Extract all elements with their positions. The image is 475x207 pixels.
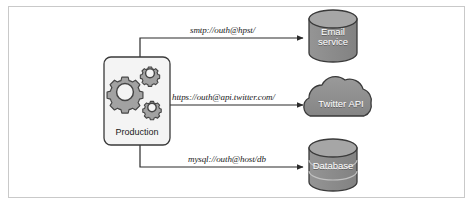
- edge-label-https: https://outh@api.twitter.com/: [172, 92, 275, 102]
- node-label-email-line2: service: [309, 37, 357, 47]
- node-label-database: Database: [309, 161, 357, 171]
- edge-label-smtp: smtp://outh@hpst/: [190, 25, 255, 35]
- diagram-figure: smtp://outh@hpst/ https://outh@api.twitt…: [0, 0, 475, 207]
- node-label-twitter-api: Twitter API: [306, 99, 376, 109]
- node-label-email-service: Email service: [309, 27, 357, 47]
- node-label-production: Production: [104, 128, 170, 137]
- edge-smtp: [140, 38, 303, 57]
- edge-label-mysql: mysql://outh@host/db: [188, 154, 266, 164]
- node-twitter-api[interactable]: [304, 77, 371, 116]
